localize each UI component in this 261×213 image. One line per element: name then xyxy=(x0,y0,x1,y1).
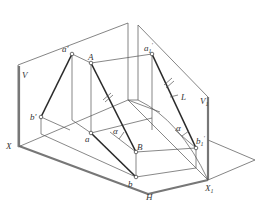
label-X1: X1 xyxy=(204,183,214,194)
label-b1-prime: b1' xyxy=(196,135,206,147)
segment-lines xyxy=(41,54,196,177)
label-a-prime: a' xyxy=(62,44,70,54)
point-b-prime xyxy=(39,115,43,119)
label-alpha-v1: α xyxy=(176,123,181,133)
label-a: a xyxy=(85,134,90,144)
labels: V V1 H X X1 a' A a1' b' a B b b1' L α α xyxy=(5,42,214,202)
point-a-prime xyxy=(70,52,74,56)
projection-diagram: V V1 H X X1 a' A a1' b' a B b b1' L α α xyxy=(0,0,261,213)
projector-lines xyxy=(41,54,196,177)
label-b-prime: b' xyxy=(30,112,38,122)
label-B: B xyxy=(137,142,143,152)
label-b: b xyxy=(128,179,133,189)
label-X: X xyxy=(5,141,12,151)
label-L: L xyxy=(180,92,186,102)
point-b xyxy=(134,175,138,179)
label-H: H xyxy=(145,192,153,202)
label-A: A xyxy=(87,52,94,62)
diagram-canvas: V V1 H X X1 a' A a1' b' a B b b1' L α α xyxy=(0,0,261,213)
parallel-tick-marks xyxy=(103,78,178,102)
label-alpha-h: α xyxy=(113,126,118,136)
v-plane xyxy=(18,23,128,147)
point-b1-prime xyxy=(194,146,198,150)
label-V: V xyxy=(22,70,29,80)
point-a xyxy=(89,131,93,135)
